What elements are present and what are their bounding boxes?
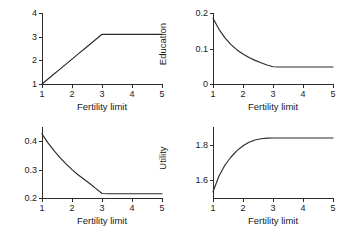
y-tick	[210, 180, 213, 181]
x-tick-label: 2	[233, 204, 253, 213]
x-tick	[72, 85, 73, 88]
y-tick	[39, 60, 42, 61]
x-tick-label: 5	[323, 204, 343, 213]
y-axis-label: Education	[158, 8, 168, 79]
y-tick	[210, 49, 213, 50]
x-tick	[273, 199, 274, 202]
x-tick-label: 4	[122, 90, 142, 99]
x-tick-label: 2	[62, 204, 82, 213]
x-tick-label: 1	[203, 90, 223, 99]
y-tick-label: 2	[0, 56, 37, 65]
x-tick-label: 5	[152, 90, 172, 99]
x-tick	[162, 199, 163, 202]
x-tick	[132, 199, 133, 202]
data-curve	[0, 0, 343, 228]
y-tick	[39, 37, 42, 38]
y-tick-label: 0.4	[0, 137, 37, 146]
y-tick-label: 1.8	[171, 140, 208, 149]
x-tick	[213, 199, 214, 202]
x-axis-label: Fertility limit	[77, 102, 127, 112]
y-tick	[39, 170, 42, 171]
x-tick-label: 4	[293, 204, 313, 213]
y-tick-label: 1.6	[171, 176, 208, 185]
x-tick-label: 5	[152, 204, 172, 213]
x-tick	[162, 85, 163, 88]
y-tick	[210, 145, 213, 146]
x-axis-line	[213, 198, 334, 199]
y-tick-label: 0.2	[0, 194, 37, 203]
x-tick	[132, 85, 133, 88]
x-tick-label: 1	[203, 204, 223, 213]
y-axis-line	[42, 127, 43, 199]
y-axis-line	[42, 13, 43, 85]
x-tick	[42, 85, 43, 88]
y-tick	[39, 84, 42, 85]
y-tick-label: 0.2	[171, 9, 208, 18]
x-tick	[243, 85, 244, 88]
data-curve	[0, 0, 343, 228]
subplot-top-right: 00.10.212345Fertility limitEducation	[0, 0, 343, 228]
x-tick	[303, 199, 304, 202]
y-tick-label: 0.3	[0, 165, 37, 174]
y-axis-label: Utility	[158, 122, 168, 193]
x-tick	[102, 199, 103, 202]
y-tick-label: 4	[0, 9, 37, 18]
x-tick-label: 2	[62, 90, 82, 99]
subplot-top-left: 123412345Fertility limitFertility	[0, 0, 343, 228]
x-tick-label: 3	[92, 204, 112, 213]
x-tick	[333, 85, 334, 88]
x-axis-label: Fertility limit	[248, 102, 298, 112]
subplot-bottom-left: 0.20.30.412345Fertility limitGrowth rate	[0, 0, 343, 228]
x-tick	[72, 199, 73, 202]
x-tick-label: 5	[323, 90, 343, 99]
x-tick-label: 3	[92, 90, 112, 99]
y-tick	[210, 13, 213, 14]
y-tick	[39, 198, 42, 199]
y-axis-line	[213, 13, 214, 85]
x-axis-line	[42, 84, 163, 85]
x-tick-label: 2	[233, 90, 253, 99]
x-tick	[273, 85, 274, 88]
x-axis-line	[213, 84, 334, 85]
y-axis-line	[213, 127, 214, 199]
x-axis-line	[42, 198, 163, 199]
x-tick-label: 1	[32, 90, 52, 99]
x-tick	[102, 85, 103, 88]
x-tick	[303, 85, 304, 88]
y-tick	[210, 84, 213, 85]
y-tick-label: 3	[0, 32, 37, 41]
data-curve	[0, 0, 343, 228]
x-axis-label: Fertility limit	[248, 216, 298, 226]
x-axis-label: Fertility limit	[77, 216, 127, 226]
x-tick	[243, 199, 244, 202]
x-tick-label: 4	[122, 204, 142, 213]
x-tick-label: 1	[32, 204, 52, 213]
y-tick-label: 0.1	[171, 44, 208, 53]
subplot-bottom-right: 1.61.812345Fertility limitUtility	[0, 0, 343, 228]
y-tick	[39, 141, 42, 142]
data-curve	[0, 0, 343, 228]
figure-panel-grid: 123412345Fertility limitFertility00.10.2…	[0, 0, 343, 228]
x-tick	[42, 199, 43, 202]
y-tick-label: 0	[171, 80, 208, 89]
y-tick	[39, 13, 42, 14]
x-tick	[333, 199, 334, 202]
x-tick	[213, 85, 214, 88]
x-tick-label: 3	[263, 204, 283, 213]
x-tick-label: 3	[263, 90, 283, 99]
x-tick-label: 4	[293, 90, 313, 99]
y-tick-label: 1	[0, 80, 37, 89]
